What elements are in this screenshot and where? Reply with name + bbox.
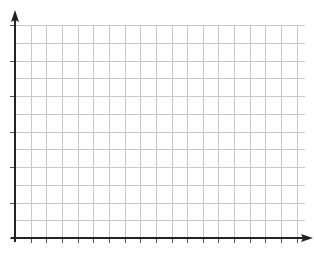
coordinate-grid bbox=[0, 0, 314, 254]
axis-ticks bbox=[10, 26, 298, 244]
grid-lines bbox=[15, 25, 305, 238]
